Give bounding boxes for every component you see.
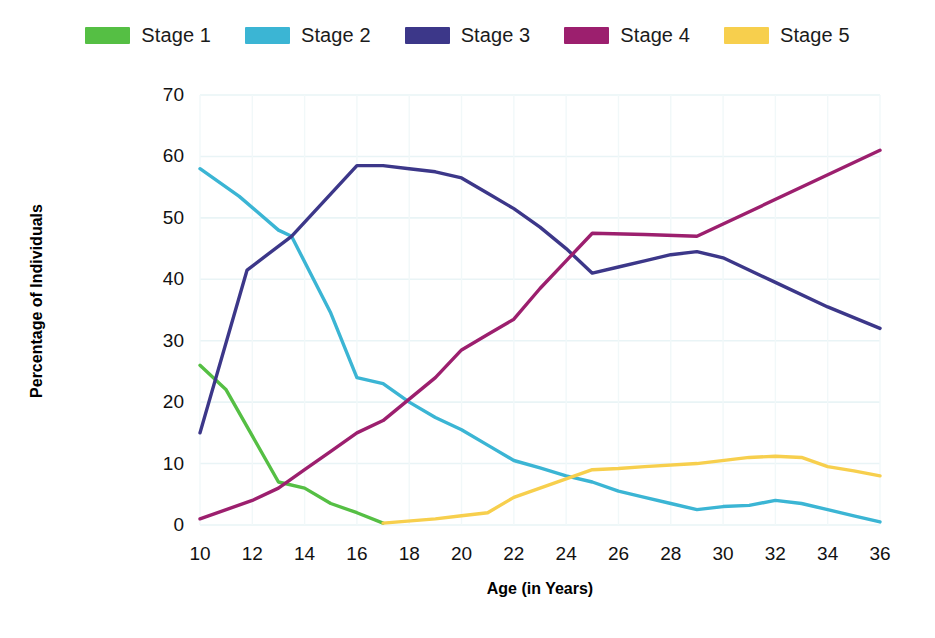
x-tick-28: 28	[651, 544, 691, 563]
x-tick-34: 34	[808, 544, 848, 563]
x-tick-16: 16	[337, 544, 377, 563]
x-tick-36: 36	[860, 544, 900, 563]
y-tick-30: 30	[124, 331, 184, 350]
series-line-stage-2	[200, 169, 880, 522]
x-tick-14: 14	[285, 544, 325, 563]
y-tick-70: 70	[124, 85, 184, 104]
y-tick-40: 40	[124, 269, 184, 288]
x-tick-10: 10	[180, 544, 220, 563]
gridlines	[200, 95, 880, 525]
x-tick-22: 22	[494, 544, 534, 563]
x-tick-26: 26	[598, 544, 638, 563]
x-tick-32: 32	[755, 544, 795, 563]
line-chart: Stage 1Stage 2Stage 3Stage 4Stage 5 0102…	[0, 0, 935, 638]
x-tick-18: 18	[389, 544, 429, 563]
plot-area: 010203040506070 101214161820222426283032…	[0, 0, 935, 638]
x-tick-30: 30	[703, 544, 743, 563]
x-tick-20: 20	[442, 544, 482, 563]
x-tick-24: 24	[546, 544, 586, 563]
series-lines	[200, 150, 880, 523]
series-line-stage-3	[200, 166, 880, 433]
y-axis-title: Percentage of Individuals	[28, 171, 46, 431]
x-axis-title: Age (in Years)	[200, 580, 880, 598]
y-tick-0: 0	[124, 515, 184, 534]
y-tick-10: 10	[124, 454, 184, 473]
y-tick-50: 50	[124, 208, 184, 227]
y-tick-20: 20	[124, 392, 184, 411]
series-line-stage-1	[200, 365, 383, 523]
x-tick-12: 12	[232, 544, 272, 563]
series-line-stage-5	[383, 456, 880, 523]
y-tick-60: 60	[124, 146, 184, 165]
